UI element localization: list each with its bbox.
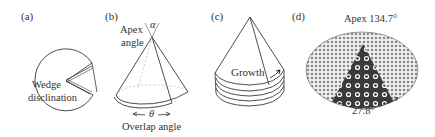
panel-b: (b) Apex angle α θ Overlap angle [100,0,210,137]
overlap-angle-label: Overlap angle [122,121,181,132]
disclination-label: disclination [28,92,77,103]
wedge-disclination-diagram [0,0,110,137]
cone-diagram [100,0,210,137]
growth-label: Growth [231,67,265,79]
sector-angle-label: 27.8° [352,105,375,116]
lattice-cone-image [290,0,435,137]
panel-d: (d) Apex 134.7° 27.8° [290,0,435,137]
theta-symbol: θ [149,108,154,119]
panel-a: (a) Wedge disclination [0,0,110,137]
wedge-label: Wedge [32,79,61,90]
panel-c: (c) Growth [200,0,300,137]
